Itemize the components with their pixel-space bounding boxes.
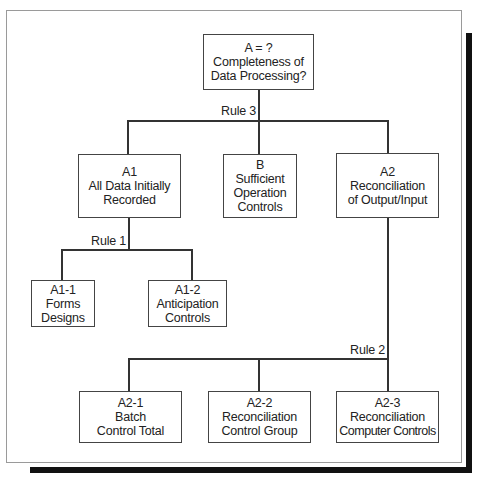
node-b-text-3: Controls xyxy=(238,200,283,214)
node-b-text-1: Sufficient xyxy=(235,172,284,186)
connector-to-b xyxy=(258,120,260,154)
node-a1-text-1: All Data Initially xyxy=(89,179,171,193)
connector-to-a2-2 xyxy=(258,358,260,391)
node-b-id: B xyxy=(256,158,264,172)
node-a2-3-text-1: Reconciliation xyxy=(350,410,425,424)
node-b: B Sufficient Operation Controls xyxy=(223,154,297,218)
connector-to-a2-1 xyxy=(128,358,130,391)
connector-a2-down xyxy=(387,218,389,359)
node-a2-2-id: A2-2 xyxy=(247,396,273,410)
node-a2-1-text-2: Control Total xyxy=(97,424,164,438)
node-a1-1-text-2: Designs xyxy=(41,311,85,325)
node-a1-2-text-2: Controls xyxy=(165,311,210,325)
connector-a1-down xyxy=(128,218,130,250)
node-a1: A1 All Data Initially Recorded xyxy=(78,154,181,218)
node-a2-2: A2-2 Reconciliation Control Group xyxy=(208,391,311,443)
node-a2-1-id: A2-1 xyxy=(118,396,144,410)
node-a2-2-text-1: Reconciliation xyxy=(222,410,297,424)
node-b-text-2: Operation xyxy=(233,186,286,200)
node-a1-1-id: A1-1 xyxy=(50,283,76,297)
node-a1-text-2: Recorded xyxy=(103,193,156,207)
node-a1-2: A1-2 Anticipation Controls xyxy=(148,280,227,327)
connector-to-a1 xyxy=(127,120,129,154)
node-a2-1-text-1: Batch xyxy=(115,410,146,424)
node-a-text-1: Completeness of xyxy=(213,55,304,69)
node-a1-2-id: A1-2 xyxy=(175,283,201,297)
node-a-id: A = ? xyxy=(245,41,273,55)
node-a2: A2 Reconciliation of Output/Input xyxy=(336,153,439,218)
node-a2-2-text-2: Control Group xyxy=(222,424,298,438)
node-a2-text-1: Reconciliation xyxy=(350,179,425,193)
connector-rule1-bar xyxy=(61,249,192,251)
node-a2-3: A2-3 Reconciliation Computer Controls xyxy=(336,391,439,443)
rule-2-label: Rule 2 xyxy=(345,344,385,356)
rule-1-label: Rule 1 xyxy=(86,235,126,247)
frame-shadow-bottom xyxy=(30,467,472,473)
node-a2-3-text-2: Computer Controls xyxy=(339,424,435,438)
connector-to-a1-1 xyxy=(61,249,63,280)
node-a1-id: A1 xyxy=(122,165,137,179)
rule-3-label: Rule 3 xyxy=(216,105,256,117)
connector-to-a2 xyxy=(387,120,389,154)
frame-shadow-right xyxy=(466,33,472,473)
node-a2-id: A2 xyxy=(380,165,395,179)
node-a-root: A = ? Completeness of Data Processing? xyxy=(203,34,314,90)
node-a2-text-2: of Output/Input xyxy=(348,193,428,207)
connector-to-a2-3 xyxy=(387,358,389,391)
connector-root-down xyxy=(258,90,260,121)
node-a2-3-id: A2-3 xyxy=(375,396,401,410)
node-a2-1: A2-1 Batch Control Total xyxy=(79,391,182,443)
node-a-text-2: Data Processing? xyxy=(211,69,306,83)
node-a1-1: A1-1 Forms Designs xyxy=(31,280,95,327)
node-a1-1-text-1: Forms xyxy=(46,297,80,311)
connector-to-a1-2 xyxy=(191,249,193,280)
node-a1-2-text-1: Anticipation xyxy=(156,297,218,311)
